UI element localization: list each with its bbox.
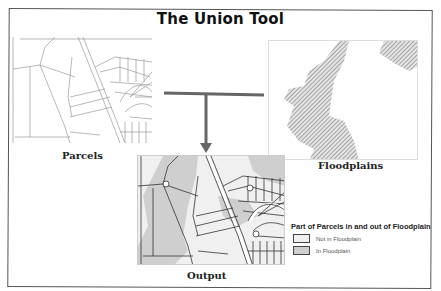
- floodplains-caption: Floodplains: [318, 160, 383, 171]
- legend-item-not-in-floodplain: Not in Floodplain: [293, 234, 431, 243]
- output-map: [137, 155, 285, 265]
- legend-label: Not in Floodplain: [316, 236, 361, 242]
- legend-swatch: [293, 246, 310, 255]
- floodplains-map: [268, 40, 418, 160]
- output-caption: Output: [187, 270, 226, 281]
- legend-label: In Floodplain: [316, 248, 350, 254]
- legend-title: Part of Parcels in and out of Floodplain: [291, 222, 431, 231]
- legend-swatch: [293, 234, 310, 243]
- parcels-map: [10, 37, 152, 143]
- union-connector-arrow: [160, 85, 270, 157]
- parcels-caption: Parcels: [62, 150, 103, 161]
- diagram-title: The Union Tool: [0, 10, 441, 28]
- legend: Part of Parcels in and out of Floodplain…: [291, 222, 431, 255]
- legend-item-in-floodplain: In Floodplain: [293, 246, 431, 255]
